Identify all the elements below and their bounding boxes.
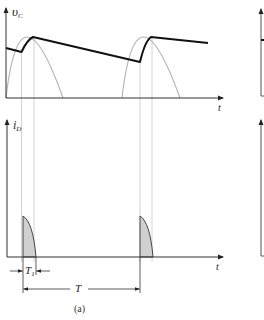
top-x-axis-label: t [218, 103, 221, 113]
partial-right-panel [261, 9, 264, 256]
diagram-canvas [0, 0, 264, 320]
id-subscript: D [16, 125, 21, 133]
sine-half-wave-1 [6, 37, 63, 98]
bottom-y-axis-label: iD [13, 119, 21, 133]
bottom-plot [7, 120, 223, 257]
t1-label: T1 [25, 265, 35, 278]
capacitor-voltage-envelope [6, 37, 208, 62]
diode-current-pulse-2 [140, 216, 153, 257]
bottom-x-axis-label: t [216, 262, 219, 272]
top-plot [6, 8, 223, 98]
figure-caption: (a) [74, 303, 85, 314]
vc-subscript: C [18, 12, 23, 20]
top-y-axis-label: υC [12, 5, 23, 20]
sine-half-wave-2 [122, 37, 180, 98]
period-label: T [75, 283, 81, 294]
guide-lines [22, 37, 153, 262]
t1-subscript: 1 [31, 270, 35, 278]
